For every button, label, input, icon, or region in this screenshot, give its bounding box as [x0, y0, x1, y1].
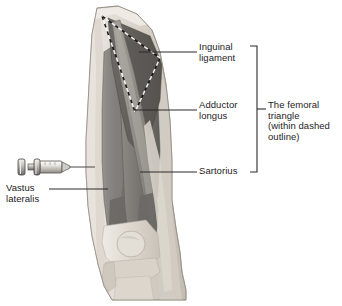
femoral-triangle-bracket	[250, 46, 266, 172]
patella	[117, 231, 145, 257]
tibia-shaft	[114, 276, 154, 302]
syringe-hub	[62, 162, 70, 172]
syringe-barrel	[39, 161, 62, 173]
syringe-collar	[34, 159, 40, 175]
label-inguinal-ligament: Inguinal ligament	[199, 42, 235, 63]
label-adductor-longus: Adductor longus	[199, 100, 237, 121]
anatomy-figure	[0, 0, 342, 306]
fibula-head	[102, 262, 116, 292]
leg-illustration	[86, 6, 186, 302]
syringe-icon	[18, 159, 95, 175]
label-femoral-triangle: The femoral triangle (within dashed outl…	[268, 100, 330, 142]
label-sartorius: Sartorius	[199, 166, 237, 177]
label-vastus-lateralis: Vastus lateralis	[6, 183, 39, 204]
syringe-flange	[18, 159, 25, 175]
